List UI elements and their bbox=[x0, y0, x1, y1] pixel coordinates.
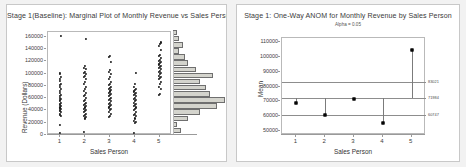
data-point bbox=[60, 111, 62, 113]
histogram-bar bbox=[173, 97, 225, 103]
histogram-bar bbox=[173, 85, 206, 91]
x-axis-tick-label: 2 bbox=[323, 138, 326, 144]
data-point bbox=[60, 76, 62, 78]
anom-stem bbox=[383, 98, 384, 123]
data-point bbox=[110, 89, 112, 91]
data-point bbox=[85, 116, 87, 118]
y-axis-tick-mark bbox=[44, 97, 46, 98]
data-point bbox=[110, 97, 112, 99]
data-point bbox=[83, 131, 85, 133]
data-point bbox=[85, 92, 87, 94]
anom-title: Stage 1: One-Way ANOM for Monthly Revenu… bbox=[237, 12, 459, 20]
data-point bbox=[410, 48, 413, 51]
data-point bbox=[110, 100, 112, 102]
y-axis-tick-mark bbox=[44, 134, 46, 135]
x-axis-tick-mark bbox=[84, 135, 85, 137]
data-point bbox=[159, 43, 161, 45]
data-point bbox=[159, 41, 161, 43]
data-point bbox=[85, 109, 87, 111]
data-point bbox=[60, 98, 62, 100]
data-point bbox=[85, 78, 87, 80]
data-point bbox=[109, 69, 111, 71]
anom-limit-label-center: 71984 bbox=[428, 95, 439, 100]
x-axis-tick-mark bbox=[159, 135, 160, 137]
marginal-plot-panel: Stage 1(Baseline): Marginal Plot of Mont… bbox=[6, 4, 227, 162]
data-point bbox=[110, 81, 112, 83]
data-point bbox=[85, 105, 87, 107]
marginal-plot-area bbox=[47, 31, 171, 134]
histogram-baseline bbox=[173, 31, 174, 134]
y-axis-tick-mark bbox=[44, 73, 46, 74]
data-point bbox=[60, 35, 62, 37]
data-point bbox=[85, 38, 87, 40]
data-point bbox=[135, 72, 137, 74]
data-point bbox=[110, 93, 112, 95]
y-axis-tick-label: 110000 bbox=[245, 38, 278, 44]
data-point bbox=[110, 112, 112, 114]
histogram-bar bbox=[173, 67, 196, 73]
y-axis-tick-mark bbox=[44, 122, 46, 123]
y-axis-tick-mark bbox=[44, 36, 46, 37]
x-axis-tick-label: 5 bbox=[157, 138, 160, 144]
data-point bbox=[135, 115, 137, 117]
histogram-bar bbox=[173, 60, 188, 66]
anom-x-axis-title: Sales Person bbox=[281, 148, 425, 155]
data-point bbox=[60, 108, 62, 110]
data-point bbox=[110, 104, 112, 106]
data-point bbox=[84, 93, 86, 95]
data-point bbox=[135, 111, 137, 113]
data-point bbox=[59, 90, 61, 92]
marginal-plot-x-axis-title: Sales Person bbox=[47, 148, 171, 155]
x-axis-tick-mark bbox=[411, 135, 412, 137]
data-point bbox=[135, 99, 137, 101]
histogram-bar bbox=[173, 54, 185, 60]
x-axis-tick-label: 3 bbox=[351, 138, 354, 144]
y-axis-tick-mark bbox=[278, 56, 280, 57]
data-point bbox=[59, 84, 61, 86]
x-axis-tick-mark bbox=[324, 135, 325, 137]
x-axis-tick-label: 4 bbox=[132, 138, 135, 144]
data-point bbox=[159, 49, 161, 51]
data-point bbox=[85, 86, 87, 88]
data-point bbox=[159, 61, 161, 63]
data-point bbox=[84, 88, 86, 90]
data-point bbox=[85, 73, 87, 75]
data-point bbox=[159, 68, 161, 70]
y-axis-tick-label: 140000 bbox=[10, 45, 43, 51]
screenshot-root: Stage 1(Baseline): Marginal Plot of Mont… bbox=[0, 0, 466, 167]
data-point bbox=[60, 115, 62, 117]
y-axis-tick-mark bbox=[278, 41, 280, 42]
x-axis-tick-mark bbox=[353, 135, 354, 137]
x-axis-tick-mark bbox=[109, 135, 110, 137]
x-axis-tick-mark bbox=[382, 135, 383, 137]
data-point bbox=[58, 132, 60, 134]
y-axis-tick-label: 70000 bbox=[245, 97, 278, 103]
y-axis-tick-mark bbox=[44, 109, 46, 110]
data-point bbox=[135, 95, 137, 97]
anom-limit-label-lower: 60747 bbox=[428, 111, 439, 116]
x-axis-tick-label: 5 bbox=[409, 138, 412, 144]
data-point bbox=[135, 106, 137, 108]
x-axis-tick-label: 1 bbox=[58, 138, 61, 144]
data-point bbox=[159, 83, 161, 85]
lower-decision-limit-line bbox=[282, 115, 426, 116]
data-point bbox=[60, 101, 62, 103]
y-axis-tick-mark bbox=[278, 71, 280, 72]
data-point bbox=[158, 45, 160, 47]
y-axis-tick-mark bbox=[44, 85, 46, 86]
y-axis-tick-label: 160000 bbox=[10, 33, 43, 39]
y-axis-tick-label: 60000 bbox=[245, 112, 278, 118]
y-axis-tick-label: 90000 bbox=[245, 68, 278, 74]
x-axis-tick-label: 2 bbox=[83, 138, 86, 144]
data-point bbox=[134, 83, 136, 85]
data-point bbox=[159, 81, 161, 83]
x-axis-line bbox=[47, 134, 197, 135]
anom-stem bbox=[412, 50, 413, 99]
data-point bbox=[110, 61, 112, 63]
x-axis-tick-mark bbox=[134, 135, 135, 137]
y-axis-tick-mark bbox=[44, 48, 46, 49]
data-point bbox=[59, 124, 61, 126]
y-axis-tick-label: 100000 bbox=[10, 70, 43, 76]
data-point bbox=[135, 103, 137, 105]
y-axis-tick-mark bbox=[278, 115, 280, 116]
